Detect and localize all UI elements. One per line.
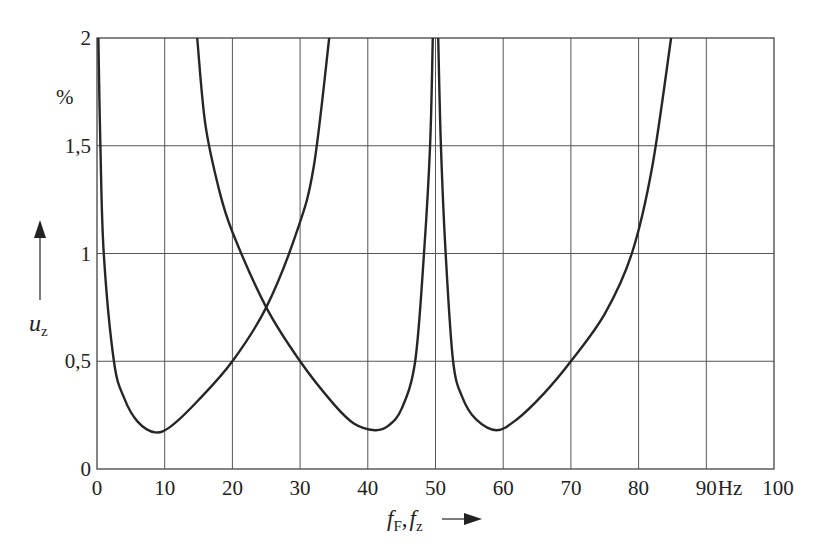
x-axis-arrow-icon [464,513,482,525]
y-unit-label: % [56,85,74,109]
y-axis-arrow-icon [34,220,46,238]
x-tick-label: 60 [493,476,514,500]
grid [97,38,774,469]
curves [98,38,671,433]
x-tick-label: 30 [290,476,311,500]
x-tick-label: 20 [222,476,243,500]
y-tick-label: 2 [81,26,92,50]
y-tick-label: 1 [81,242,92,266]
svg-text:fF,fz: fF,fz [387,506,423,534]
x-tick-label: 0 [92,476,103,500]
y-tick-label: 1,5 [65,134,91,158]
y-axis-label-sub: z [41,323,48,339]
x-tick-label: 10 [154,476,175,500]
series-curve-1 [98,38,329,433]
x-axis-label-sep: , [402,506,408,531]
x-tick-label: 70 [560,476,581,500]
chart: 0102030405060708090100 00,511,52 % uz Hz… [0,0,824,553]
series-curve-3 [438,38,671,430]
x-tick-label: 50 [425,476,446,500]
x-axis-label-sub2: z [416,518,423,534]
x-unit-label: Hz [718,476,743,500]
x-axis-label: fF,fz [387,506,482,534]
y-axis-label-main: u [29,310,41,336]
y-tick-label: 0,5 [65,349,91,373]
x-tick-label: 40 [357,476,378,500]
x-axis-label-sub1: F [393,518,401,534]
x-tick-label: 100 [762,476,794,500]
x-tick-label: 80 [628,476,649,500]
y-axis-label: uz [29,220,48,339]
x-tick-label: 90 [696,476,717,500]
x-tick-labels: 0102030405060708090100 [92,476,794,500]
y-tick-label: 0 [81,457,92,481]
svg-text:uz: uz [29,310,48,339]
